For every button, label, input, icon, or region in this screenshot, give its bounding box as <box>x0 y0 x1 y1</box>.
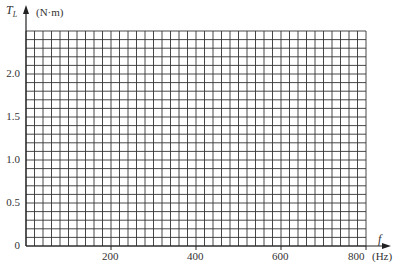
y-tick-label: 0.5 <box>0 196 20 208</box>
y-tick-label: 2.0 <box>0 67 20 79</box>
chart-plot-area <box>0 0 402 272</box>
x-tick-label: 200 <box>102 250 119 262</box>
x-tick-label: 800 <box>348 250 365 262</box>
y-axis-subscript: L <box>13 10 17 19</box>
y-axis-symbol: TL <box>6 3 17 19</box>
y-axis-unit: (N·m) <box>36 6 64 18</box>
y-tick-label: 1.5 <box>0 110 20 122</box>
x-tick-label: 400 <box>187 250 204 262</box>
y-axis-arrow-icon <box>23 5 29 14</box>
x-axis-unit: (Hz) <box>372 250 392 262</box>
x-tick-label: 600 <box>272 250 289 262</box>
x-axis-symbol: f <box>378 232 381 247</box>
y-tick-label: 1.0 <box>0 153 20 165</box>
y-axis-symbol-letter: T <box>6 3 13 17</box>
x-axis-arrow-icon <box>382 243 391 249</box>
y-tick-label: 0 <box>0 239 20 251</box>
